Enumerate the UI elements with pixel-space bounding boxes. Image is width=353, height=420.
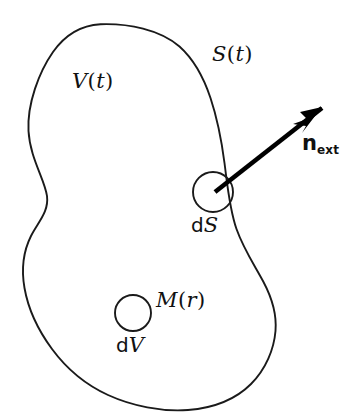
surface-label: S(t) xyxy=(212,44,253,65)
surface-element-label: dS xyxy=(191,215,218,236)
surface-symbol: S xyxy=(212,42,227,66)
surface-close-paren: ) xyxy=(244,42,253,66)
surface-boundary-blob xyxy=(23,24,276,410)
surface-element-d: d xyxy=(191,213,204,237)
mass-argument: r xyxy=(187,288,197,312)
volume-open-paren: ( xyxy=(88,69,97,93)
volume-element-d: d xyxy=(116,333,129,357)
normal-subscript: ext xyxy=(317,143,339,157)
figure-canvas xyxy=(0,0,353,420)
normal-vector-label: next xyxy=(302,133,339,154)
mass-symbol: M xyxy=(156,288,178,312)
volume-close-paren: ) xyxy=(105,69,114,93)
mass-open-paren: ( xyxy=(178,288,187,312)
volume-argument: t xyxy=(96,69,105,93)
volume-symbol: V xyxy=(72,69,88,93)
control-volume-figure: V(t) S(t) next dS M(r) dV xyxy=(0,0,353,420)
surface-argument: t xyxy=(235,42,244,66)
normal-symbol: n xyxy=(302,131,317,155)
surface-element-symbol: S xyxy=(204,213,218,237)
volume-element-symbol: V xyxy=(129,333,144,357)
volume-element-label: dV xyxy=(116,335,144,356)
mass-close-paren: ) xyxy=(197,288,206,312)
volume-label: V(t) xyxy=(72,71,114,92)
mass-label: M(r) xyxy=(156,290,206,311)
